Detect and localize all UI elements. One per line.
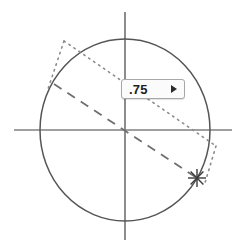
angle-control-canvas[interactable]	[0, 0, 240, 252]
angle-value-field[interactable]: .75	[121, 79, 185, 99]
angle-handle-marker[interactable]	[188, 169, 206, 187]
dotted-tangent-upper-left	[48, 41, 64, 89]
dotted-tangent-lower-right	[204, 146, 216, 186]
angle-value-text: .75	[129, 83, 148, 96]
triangle-right-icon[interactable]	[171, 85, 177, 93]
